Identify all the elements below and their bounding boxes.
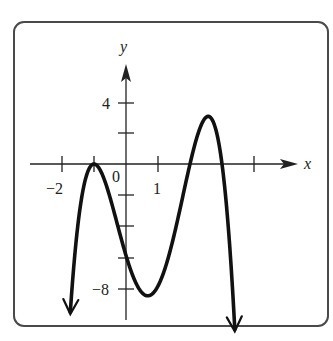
y-axis-label: y	[118, 38, 128, 56]
graph: y x 0 −2 1 4 −8	[0, 0, 333, 341]
y-tick-label-4: 4	[102, 95, 110, 112]
x-axis-label: x	[303, 155, 311, 172]
y-tick-label-minus8: −8	[92, 281, 109, 298]
x-tick-label-1: 1	[153, 180, 161, 197]
x-tick-label-minus2: −2	[46, 180, 63, 197]
origin-label: 0	[112, 168, 120, 185]
